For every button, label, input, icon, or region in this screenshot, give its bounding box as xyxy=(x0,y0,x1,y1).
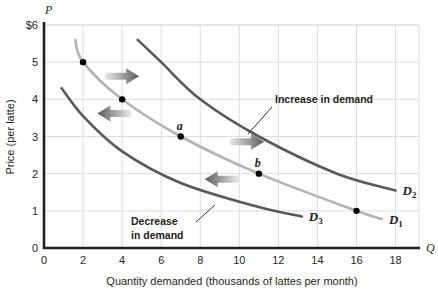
data-point-marker xyxy=(178,133,184,139)
y-tick-label: 4 xyxy=(32,93,38,105)
y-tick-label: 3 xyxy=(32,131,38,143)
data-point-marker xyxy=(353,208,359,214)
increase-in-demand-label: Increase in demand xyxy=(275,93,373,105)
x-tick-label: 6 xyxy=(158,254,164,266)
chart-background xyxy=(0,0,438,295)
y-tick-label: 5 xyxy=(32,56,38,68)
data-point-marker xyxy=(256,170,262,176)
chart-figure: ab 024681012141618012345$6 P Q Quantity … xyxy=(0,0,438,295)
data-point-marker xyxy=(119,96,125,102)
x-tick-label: 14 xyxy=(311,254,323,266)
x-axis-letter: Q xyxy=(426,241,435,255)
point-label-b: b xyxy=(255,156,261,170)
x-tick-label: 4 xyxy=(119,254,125,266)
x-tick-label: 10 xyxy=(233,254,245,266)
point-label-a: a xyxy=(177,119,183,133)
x-tick-label: 16 xyxy=(350,254,362,266)
data-point-marker xyxy=(80,59,86,65)
decrease-in-demand-label: Decrease xyxy=(131,215,178,227)
y-tick-label: 1 xyxy=(32,205,38,217)
decrease-in-demand-label-line2: in demand xyxy=(131,229,184,241)
y-axis-title: Price (per latte) xyxy=(4,99,16,174)
y-tick-label: $6 xyxy=(26,19,38,31)
x-axis-title: Quantity demanded (thousands of lattes p… xyxy=(106,275,357,287)
x-tick-label: 8 xyxy=(197,254,203,266)
y-axis-letter: P xyxy=(44,3,53,17)
x-tick-label: 12 xyxy=(272,254,284,266)
x-tick-label: 2 xyxy=(80,254,86,266)
demand-curve-chart: ab 024681012141618012345$6 P Q Quantity … xyxy=(0,0,438,295)
x-tick-label: 18 xyxy=(389,254,401,266)
y-tick-label: 2 xyxy=(32,168,38,180)
x-tick-label: 0 xyxy=(41,254,47,266)
y-tick-label: 0 xyxy=(32,242,38,254)
